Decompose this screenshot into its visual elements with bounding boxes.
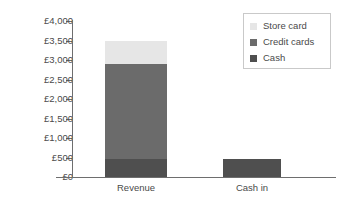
- y-axis-tick: £4,000: [0, 21, 73, 22]
- legend-item-label: Cash: [263, 53, 285, 63]
- bar-segment-cash: [105, 159, 167, 177]
- legend-swatch-icon: [250, 55, 257, 62]
- legend-swatch-icon: [250, 23, 257, 30]
- bar-segment-credit-cards: [105, 64, 167, 160]
- legend-item-credit-cards[interactable]: Credit cards: [250, 36, 314, 48]
- y-axis-tick: £500: [0, 158, 73, 159]
- y-axis-tick-label: £2,500: [13, 75, 73, 85]
- legend-swatch-icon: [250, 39, 257, 46]
- x-axis-line: [56, 177, 336, 178]
- y-axis-tick-label: £4,000: [13, 16, 73, 26]
- y-axis-tick-label: £1,000: [13, 133, 73, 143]
- y-axis-tick: £1,000: [0, 138, 73, 139]
- legend-item-label: Store card: [263, 21, 307, 31]
- legend-item-store-card[interactable]: Store card: [250, 20, 307, 32]
- x-axis-category-label: Revenue: [96, 183, 176, 193]
- bar-segment-cash: [223, 159, 281, 177]
- y-axis-tick: £2,500: [0, 80, 73, 81]
- bar-revenue: [105, 21, 167, 177]
- y-axis-tick-label: £2,000: [13, 94, 73, 104]
- y-axis-tick: £2,000: [0, 99, 73, 100]
- y-axis-tick: £1,500: [0, 119, 73, 120]
- legend-item-label: Credit cards: [263, 37, 314, 47]
- y-axis-tick-label: £3,000: [13, 55, 73, 65]
- legend: Store cardCredit cardsCash: [243, 13, 331, 69]
- y-axis-tick: £3,000: [0, 60, 73, 61]
- y-axis-tick-label: £1,500: [13, 114, 73, 124]
- y-axis-line: [72, 20, 73, 178]
- bar-segment-store-card: [105, 41, 167, 64]
- y-axis-tick: £3,500: [0, 41, 73, 42]
- y-axis-tick-label: £500: [13, 153, 73, 163]
- y-axis-tick-label: £3,500: [13, 36, 73, 46]
- x-axis-category-label: Cash in: [214, 183, 290, 193]
- stacked-bar-chart: £4,000£3,500£3,000£2,500£2,000£1,500£1,0…: [0, 0, 343, 204]
- legend-item-cash[interactable]: Cash: [250, 52, 285, 64]
